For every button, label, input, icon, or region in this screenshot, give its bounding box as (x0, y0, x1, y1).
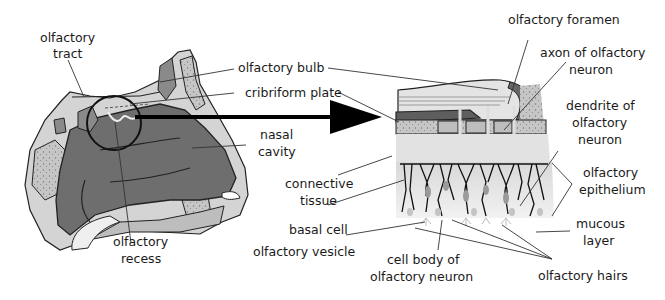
label-olfactory-recess-line1: olfactory (113, 234, 169, 249)
label-cell-body-line1: cell body of (387, 252, 460, 267)
label-dendrite-line2: olfactory (572, 115, 628, 130)
label-nasal-cavity-line1: nasal (260, 127, 293, 142)
label-olfactory-foramen: olfactory foramen (508, 12, 620, 27)
label-olfactory-recess-line2: recess (121, 251, 161, 266)
nose-section (25, 50, 248, 250)
label-mucous-line2: layer (583, 233, 615, 248)
label-olfactory-hairs: olfactory hairs (538, 268, 628, 283)
label-connective-line1: connective (285, 176, 354, 191)
olfactory-diagram: olfactory tract olfactory bulb cribrifor… (0, 0, 665, 300)
label-cribriform-plate: cribriform plate (245, 85, 342, 100)
label-connective-line2: tissue (300, 193, 337, 208)
label-basal-cell: basal cell (289, 222, 348, 237)
label-olfactory-vesicle: olfactory vesicle (253, 244, 356, 259)
label-olfactory-tract-line2: tract (53, 46, 83, 61)
label-axon-line1: axon of olfactory (540, 45, 646, 60)
label-cell-body-line2: olfactory neuron (370, 269, 473, 284)
label-dendrite-line1: dendrite of (566, 98, 635, 113)
label-olfactory-bulb: olfactory bulb (238, 60, 324, 75)
label-epithelium-line2: epithelium (579, 182, 646, 197)
label-olfactory-tract-line1: olfactory (40, 30, 96, 45)
label-epithelium-line1: olfactory (583, 165, 639, 180)
label-mucous-line1: mucous (576, 216, 625, 231)
label-axon-line2: neuron (569, 62, 613, 77)
label-nasal-cavity-line2: cavity (258, 144, 296, 159)
label-dendrite-line3: neuron (578, 132, 622, 147)
